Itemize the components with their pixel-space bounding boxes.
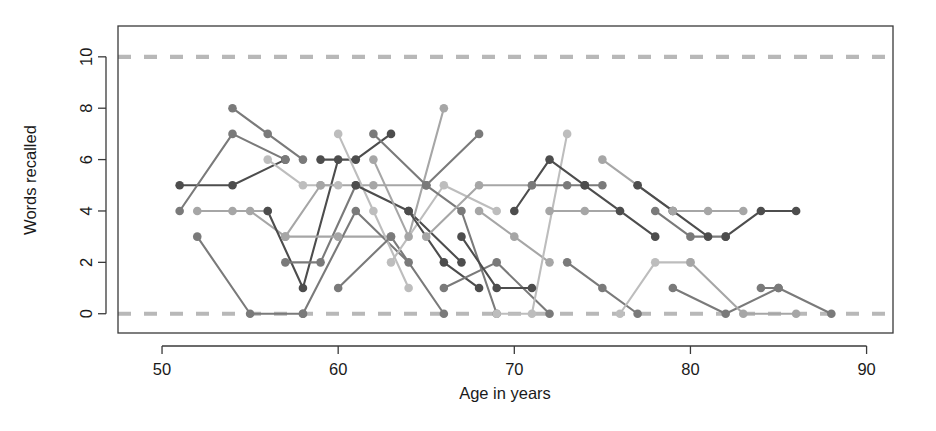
data-point — [580, 181, 589, 190]
data-point — [774, 284, 783, 293]
data-point — [263, 155, 272, 164]
data-point — [704, 207, 713, 216]
data-point — [440, 104, 449, 113]
data-point — [404, 207, 413, 216]
data-point — [246, 309, 255, 318]
data-point — [387, 130, 396, 139]
data-point — [369, 207, 378, 216]
data-point — [721, 309, 730, 318]
chart-figure: 5060708090 0246810 Age in years Words re… — [0, 0, 936, 431]
data-point — [299, 284, 308, 293]
data-point — [299, 309, 308, 318]
data-point — [633, 309, 642, 318]
y-tick-label-10: 10 — [77, 48, 95, 66]
data-point — [334, 155, 343, 164]
data-point — [633, 181, 642, 190]
x-tick-label-70: 70 — [505, 360, 523, 378]
data-point — [739, 309, 748, 318]
data-point — [351, 155, 360, 164]
data-point — [316, 181, 325, 190]
y-tick-label-6: 6 — [77, 155, 95, 164]
data-point — [369, 181, 378, 190]
data-point — [598, 284, 607, 293]
data-point — [263, 130, 272, 139]
x-tick-label-90: 90 — [857, 360, 875, 378]
data-point — [334, 284, 343, 293]
data-point — [704, 232, 713, 241]
data-point — [563, 130, 572, 139]
data-point — [299, 155, 308, 164]
data-point — [263, 207, 272, 216]
data-point — [175, 181, 184, 190]
data-point — [475, 130, 484, 139]
y-tick-label-8: 8 — [77, 104, 95, 113]
data-point — [334, 232, 343, 241]
data-point — [351, 181, 360, 190]
data-point — [422, 232, 431, 241]
data-point — [404, 258, 413, 267]
data-point — [686, 258, 695, 267]
data-point — [792, 309, 801, 318]
data-point — [510, 232, 519, 241]
data-point — [316, 258, 325, 267]
data-point — [281, 258, 290, 267]
data-point — [475, 284, 484, 293]
data-point — [545, 309, 554, 318]
data-point — [528, 181, 537, 190]
spaghetti-plot-svg: 5060708090 0246810 Age in years Words re… — [0, 0, 936, 431]
x-tick-label-50: 50 — [153, 360, 171, 378]
data-point — [528, 284, 537, 293]
data-point — [563, 258, 572, 267]
figure-background — [0, 0, 936, 431]
data-point — [440, 181, 449, 190]
data-point — [440, 258, 449, 267]
data-point — [457, 207, 466, 216]
data-point — [651, 258, 660, 267]
data-point — [369, 155, 378, 164]
data-point — [440, 309, 449, 318]
data-point — [422, 181, 431, 190]
data-point — [193, 207, 202, 216]
data-point — [475, 207, 484, 216]
x-tick-label-60: 60 — [329, 360, 347, 378]
y-axis-label: Words recalled — [21, 125, 39, 235]
data-point — [404, 232, 413, 241]
data-point — [721, 232, 730, 241]
data-point — [334, 130, 343, 139]
data-point — [757, 207, 766, 216]
data-point — [175, 207, 184, 216]
data-point — [369, 130, 378, 139]
data-point — [669, 284, 678, 293]
data-point — [387, 232, 396, 241]
data-point — [598, 155, 607, 164]
data-point — [545, 155, 554, 164]
x-axis-label: Age in years — [459, 384, 551, 402]
data-point — [492, 309, 501, 318]
data-point — [545, 207, 554, 216]
data-point — [651, 232, 660, 241]
data-point — [616, 309, 625, 318]
data-point — [492, 207, 501, 216]
data-point — [281, 232, 290, 241]
data-point — [598, 181, 607, 190]
data-point — [281, 155, 290, 164]
x-tick-label-80: 80 — [681, 360, 699, 378]
data-point — [669, 207, 678, 216]
data-point — [228, 104, 237, 113]
data-point — [686, 232, 695, 241]
data-point — [545, 258, 554, 267]
data-point — [228, 130, 237, 139]
data-point — [351, 207, 360, 216]
y-tick-label-4: 4 — [77, 206, 95, 215]
data-point — [616, 207, 625, 216]
data-point — [404, 284, 413, 293]
data-point — [440, 284, 449, 293]
data-point — [316, 155, 325, 164]
y-tick-label-2: 2 — [77, 258, 95, 267]
data-point — [334, 181, 343, 190]
data-point — [475, 181, 484, 190]
data-point — [457, 258, 466, 267]
data-point — [228, 207, 237, 216]
data-point — [739, 207, 748, 216]
data-point — [528, 309, 537, 318]
